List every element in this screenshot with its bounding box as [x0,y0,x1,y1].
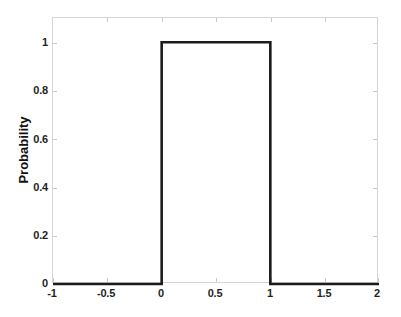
x-tick-label-1: 1 [267,287,273,300]
figure-canvas: Probability 1 0.8 0.6 0.4 0.2 0 -1 -0.5 … [0,0,401,317]
x-tick-label-neg1: -1 [47,287,56,300]
plot-area [52,17,378,283]
y-tick-label-0-4: 0.4 [33,181,48,194]
x-tick-label-neg0-5: -0.5 [97,287,115,300]
x-tick-label-1-5: 1.5 [317,287,332,300]
x-tick-label-0-5: 0.5 [208,287,223,300]
x-tick-label-2: 2 [374,287,380,300]
x-tick-label-0: 0 [158,287,164,300]
data-plot-svg [53,18,379,284]
y-tick-label-0-8: 0.8 [33,84,48,97]
y-tick-label-0-6: 0.6 [33,133,48,146]
y-tick-label-1: 1 [42,36,48,49]
series-line-uniform-probability [53,42,379,284]
y-tick-label-0-2: 0.2 [33,229,48,242]
y-axis-label: Probability [14,17,34,283]
